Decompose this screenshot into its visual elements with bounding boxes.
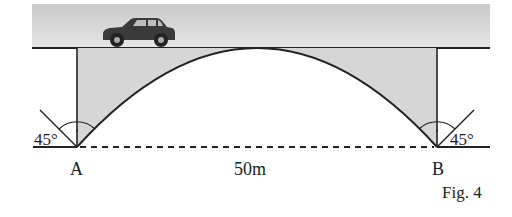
point-label-a: A bbox=[70, 159, 83, 179]
figure-caption: Fig. 4 bbox=[442, 183, 482, 202]
span-length-label: 50m bbox=[234, 159, 266, 179]
road-deck bbox=[32, 4, 490, 48]
angle-label-right: 45° bbox=[450, 130, 474, 149]
arch-bridge-diagram: 45° 45° A B 50m Fig. 4 bbox=[0, 0, 512, 217]
point-label-b: B bbox=[432, 159, 444, 179]
angle-label-left: 45° bbox=[34, 130, 58, 149]
